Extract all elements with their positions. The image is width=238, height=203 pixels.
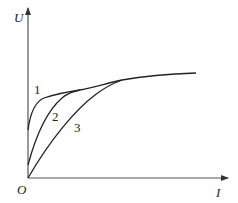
origin-label: O	[17, 182, 27, 197]
uI-diagram: U I O 1 2 3	[0, 0, 238, 203]
curve-2-label: 2	[52, 109, 59, 124]
curve-3-label: 3	[74, 120, 81, 135]
curve-1-label: 1	[34, 82, 41, 97]
saturation-tail	[122, 73, 196, 80]
y-axis-label: U	[14, 10, 25, 25]
curve-2	[28, 90, 80, 165]
x-axis-label: I	[215, 185, 221, 200]
